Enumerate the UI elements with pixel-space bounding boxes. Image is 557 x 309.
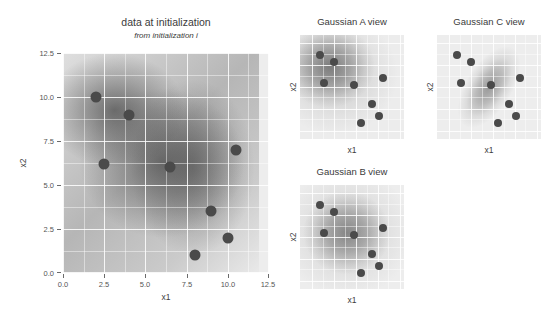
main-plot-title: data at initialization [63,16,269,28]
main-y-tick: 2.5 [26,225,54,234]
main-y-tickmark [57,185,61,186]
data-point [487,81,495,89]
main-x-tick: 5.0 [131,280,159,289]
facet-c-title: Gaussian C view [434,16,544,27]
main-x-tickmark [145,274,146,278]
data-point [222,232,233,243]
main-y-axis-label: x2 [18,153,28,173]
main-x-axis-label: x1 [63,292,269,302]
data-point [350,81,358,89]
main-x-tickmark [187,274,188,278]
data-point [379,224,387,232]
data-point [316,51,324,59]
main-y-tick: 7.5 [26,137,54,146]
data-point [189,250,200,261]
data-point [330,208,338,216]
facet-b-x-axis-label: x1 [300,295,404,305]
data-point [375,262,383,270]
main-y-tick: 12.5 [26,49,54,58]
main-x-tickmark [268,274,269,278]
data-point [350,231,358,239]
facet-b-y-axis-label: x2 [288,227,298,247]
facet-c-density-panel [437,35,541,139]
main-y-tickmark [57,53,61,54]
main-y-tickmark [57,272,61,273]
facet-a-density-panel [300,35,404,139]
facet-b-title: Gaussian B view [297,166,407,177]
data-point [512,112,520,120]
main-x-tick: 2.5 [90,280,118,289]
main-y-tickmark [57,97,61,98]
main-x-tickmark [63,274,64,278]
data-point [516,74,524,82]
data-point [320,79,328,87]
main-x-tick: 12.5 [254,280,282,289]
facet-a-title: Gaussian A view [297,16,407,27]
data-point [316,201,324,209]
data-point [357,119,365,127]
data-point [99,158,110,169]
main-density-right-band [259,53,269,273]
main-y-tickmark [57,229,61,230]
facet-a-y-axis-label: x2 [288,77,298,97]
data-point [368,250,376,258]
main-x-tickmark [228,274,229,278]
facet-b-density-panel [300,185,404,289]
data-point [231,144,242,155]
data-point [467,58,475,66]
data-point [330,58,338,66]
data-point [90,92,101,103]
main-y-tick: 10.0 [26,93,54,102]
data-point [494,119,502,127]
data-point [505,100,513,108]
facet-c-x-axis-label: x1 [437,145,541,155]
data-point [368,100,376,108]
data-point [206,206,217,217]
data-point [375,112,383,120]
main-x-tickmark [104,274,105,278]
data-point [165,162,176,173]
facet-c-y-axis-label: x2 [425,77,435,97]
data-point [379,74,387,82]
data-point [123,109,134,120]
data-point [457,79,465,87]
data-point [320,229,328,237]
main-plot-subtitle: from initialization i [63,31,269,40]
data-point [357,269,365,277]
data-point [453,51,461,59]
main-y-tick: 0.0 [26,269,54,278]
main-x-tick: 0.0 [49,280,77,289]
main-x-tick: 7.5 [173,280,201,289]
main-y-tick: 5.0 [26,181,54,190]
main-y-tickmark [57,141,61,142]
main-x-tick: 10.0 [214,280,242,289]
main-density-panel [63,53,269,273]
facet-a-x-axis-label: x1 [300,145,404,155]
